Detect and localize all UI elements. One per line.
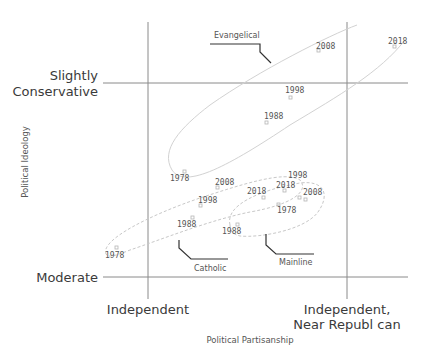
- leader-evangelical: [210, 44, 271, 63]
- point-label-evangelical-1978: 1978: [170, 174, 189, 183]
- point-label-mainline-2008: 2008: [303, 188, 322, 197]
- ellipse-evangelical: [168, 25, 405, 177]
- leader-mainline: [266, 234, 314, 254]
- point-label-evangelical-2008: 2008: [316, 42, 335, 51]
- point-label-catholic-2008: 2008: [215, 178, 234, 187]
- group-label-evangelical: Evangelical: [214, 31, 260, 40]
- chart: 2008 2018 1998 1988 1978 2008 1998 1988 …: [0, 0, 428, 359]
- leader-catholic: [179, 240, 228, 259]
- point-label-catholic-2018: 2018: [276, 181, 295, 190]
- point-label-catholic-1998: 1998: [198, 196, 217, 205]
- point-label-evangelical-1988: 1988: [264, 112, 283, 121]
- y-tick-moderate: Moderate: [36, 270, 98, 285]
- point-label-evangelical-2018: 2018: [388, 37, 407, 46]
- y-axis-title: Political Ideology: [20, 126, 30, 198]
- point-label-mainline-1998: 1998: [288, 171, 307, 180]
- y-tick-conservative: Conservative: [13, 84, 98, 99]
- point-label-mainline-2018: 2018: [247, 187, 266, 196]
- x-tick-near-republican: Near Republ can: [293, 317, 400, 332]
- point-label-catholic-1988: 1988: [177, 220, 196, 229]
- group-label-mainline: Mainline: [279, 258, 313, 267]
- x-tick-independent-comma: Independent,: [304, 302, 391, 317]
- point-label-mainline-1988: 1988: [222, 227, 241, 236]
- x-axis-title: Political Partisanship: [206, 335, 293, 345]
- y-tick-slightly: Slightly: [50, 68, 99, 83]
- point-label-catholic-1978: 1978: [105, 251, 124, 260]
- x-tick-independent: Independent: [107, 302, 189, 317]
- point-label-mainline-1978: 1978: [277, 206, 296, 215]
- group-label-catholic: Catholic: [194, 264, 226, 273]
- ellipse-catholic: [106, 177, 303, 256]
- point-label-evangelical-1998: 1998: [285, 86, 304, 95]
